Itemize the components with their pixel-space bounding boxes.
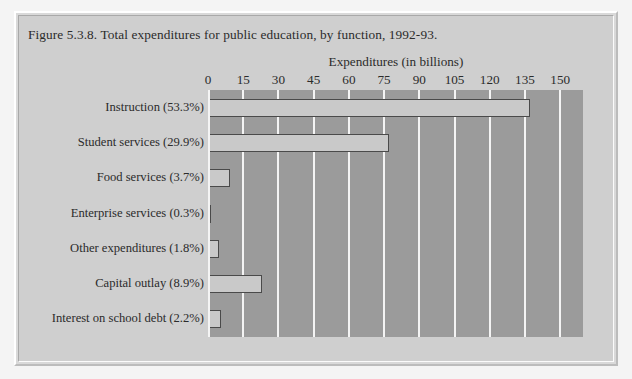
y-axis-line	[208, 90, 210, 337]
category-label: Food services (3.7%)	[4, 170, 204, 185]
gridline	[277, 90, 279, 337]
bar	[208, 310, 221, 328]
bar	[208, 134, 389, 152]
gridline	[454, 90, 456, 337]
x-tick-label: 30	[272, 72, 285, 88]
gridline	[242, 90, 244, 337]
x-tick-label: 15	[237, 72, 250, 88]
x-axis-title: Expenditures (in billions)	[208, 54, 584, 70]
gridline	[313, 90, 315, 337]
bar	[208, 275, 262, 293]
gridline	[348, 90, 350, 337]
x-tick-label: 105	[445, 72, 465, 88]
gridline	[418, 90, 420, 337]
bar	[208, 169, 230, 187]
x-tick-label: 60	[342, 72, 355, 88]
category-label: Instruction (53.3%)	[4, 100, 204, 115]
category-label: Student services (29.9%)	[4, 135, 204, 150]
plot-area	[208, 90, 583, 337]
category-label: Enterprise services (0.3%)	[4, 206, 204, 221]
figure-title: Figure 5.3.8. Total expenditures for pub…	[28, 27, 437, 43]
x-tick-label: 45	[307, 72, 320, 88]
category-label: Interest on school debt (2.2%)	[4, 311, 204, 326]
x-tick-label: 120	[480, 72, 500, 88]
x-tick-label: 150	[550, 72, 570, 88]
category-label: Other expenditures (1.8%)	[4, 241, 204, 256]
x-tick-label: 90	[413, 72, 426, 88]
category-label: Capital outlay (8.9%)	[4, 276, 204, 291]
figure-container: Figure 5.3.8. Total expenditures for pub…	[0, 0, 632, 379]
gridline	[559, 90, 561, 337]
x-tick-label: 0	[205, 72, 212, 88]
x-tick-label: 135	[515, 72, 535, 88]
x-axis-tick-labels: 0153045607590105120135150	[0, 72, 632, 90]
gridline	[383, 90, 385, 337]
category-axis-labels: Instruction (53.3%)Student services (29.…	[2, 90, 204, 337]
x-tick-label: 75	[378, 72, 391, 88]
gridline	[524, 90, 526, 337]
bar	[208, 99, 530, 117]
gridline	[489, 90, 491, 337]
